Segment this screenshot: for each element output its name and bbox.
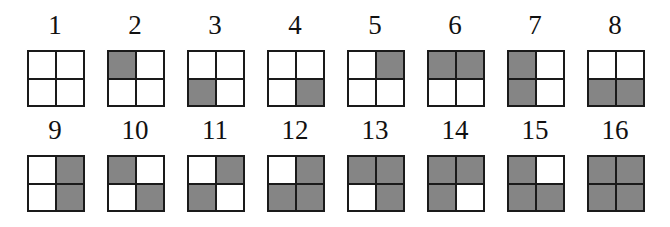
two-by-two-grid xyxy=(187,50,245,107)
grid-cell-bottom-left-empty xyxy=(29,79,56,106)
grid-cell-top-left-empty xyxy=(189,157,216,184)
pattern-number-label: 8 xyxy=(587,10,643,40)
two-by-two-grid xyxy=(107,50,165,107)
pattern-item-10: 10 xyxy=(107,115,163,212)
two-by-two-grid xyxy=(187,155,245,212)
grid-cell-bottom-right-empty xyxy=(216,79,243,106)
pattern-number-label: 2 xyxy=(107,10,163,40)
grid-cell-top-left-filled xyxy=(109,157,136,184)
grid-cell-top-right-filled xyxy=(456,52,483,79)
pattern-item-3: 3 xyxy=(187,10,243,107)
grid-cell-bottom-right-empty xyxy=(376,79,403,106)
two-by-two-grid xyxy=(427,155,485,212)
pattern-number-label: 14 xyxy=(427,115,483,145)
grid-cell-top-right-filled xyxy=(216,157,243,184)
grid-cell-top-left-filled xyxy=(589,157,616,184)
pattern-number-label: 10 xyxy=(107,115,163,145)
two-by-two-grid xyxy=(27,50,85,107)
grid-cell-bottom-left-empty xyxy=(29,184,56,211)
pattern-item-8: 8 xyxy=(587,10,643,107)
grid-cell-bottom-left-filled xyxy=(189,184,216,211)
grid-cell-bottom-left-filled xyxy=(269,184,296,211)
grid-cell-top-left-empty xyxy=(269,157,296,184)
pattern-number-label: 5 xyxy=(347,10,403,40)
grid-cell-top-right-filled xyxy=(376,52,403,79)
pattern-number-label: 4 xyxy=(267,10,323,40)
grid-cell-bottom-right-filled xyxy=(616,79,643,106)
grid-cell-bottom-right-filled xyxy=(136,184,163,211)
two-by-two-grid xyxy=(587,50,645,107)
grid-cell-bottom-left-filled xyxy=(589,79,616,106)
two-by-two-grid xyxy=(507,50,565,107)
pattern-item-6: 6 xyxy=(427,10,483,107)
pattern-number-label: 1 xyxy=(27,10,83,40)
grid-cell-bottom-right-filled xyxy=(536,184,563,211)
pattern-item-9: 9 xyxy=(27,115,83,212)
two-by-two-grid xyxy=(347,155,405,212)
grid-cell-top-right-empty xyxy=(536,157,563,184)
two-by-two-grid xyxy=(347,50,405,107)
pattern-item-15: 15 xyxy=(507,115,563,212)
grid-cell-bottom-left-filled xyxy=(509,184,536,211)
pattern-item-5: 5 xyxy=(347,10,403,107)
grid-cell-top-right-empty xyxy=(616,52,643,79)
two-by-two-grid xyxy=(27,155,85,212)
grid-cell-top-left-filled xyxy=(429,157,456,184)
grid-cell-top-left-empty xyxy=(189,52,216,79)
grid-cell-bottom-left-filled xyxy=(509,79,536,106)
pattern-item-1: 1 xyxy=(27,10,83,107)
pattern-item-12: 12 xyxy=(267,115,323,212)
grid-cell-bottom-left-filled xyxy=(189,79,216,106)
grid-cell-top-left-empty xyxy=(589,52,616,79)
pattern-number-label: 9 xyxy=(27,115,83,145)
grid-cell-top-right-filled xyxy=(296,157,323,184)
grid-cell-bottom-left-filled xyxy=(429,184,456,211)
grid-cell-bottom-right-empty xyxy=(56,79,83,106)
grid-cell-top-left-filled xyxy=(109,52,136,79)
pattern-item-16: 16 xyxy=(587,115,643,212)
pattern-number-label: 7 xyxy=(507,10,563,40)
grid-cell-bottom-right-filled xyxy=(616,184,643,211)
grid-cell-bottom-left-empty xyxy=(349,79,376,106)
pattern-number-label: 11 xyxy=(187,115,243,145)
grid-cell-top-right-filled xyxy=(616,157,643,184)
grid-cell-top-left-filled xyxy=(429,52,456,79)
grid-cell-top-right-empty xyxy=(136,52,163,79)
grid-cell-top-left-empty xyxy=(29,52,56,79)
grid-cell-top-right-empty xyxy=(136,157,163,184)
grid-cell-top-right-filled xyxy=(376,157,403,184)
grid-cell-bottom-right-empty xyxy=(456,79,483,106)
grid-cell-top-left-empty xyxy=(349,52,376,79)
grid-cell-bottom-right-filled xyxy=(296,184,323,211)
grid-cell-top-left-filled xyxy=(509,52,536,79)
grid-cell-bottom-left-empty xyxy=(109,184,136,211)
grid-cell-top-right-empty xyxy=(296,52,323,79)
grid-cell-top-left-empty xyxy=(29,157,56,184)
grid-cell-top-right-empty xyxy=(536,52,563,79)
pattern-number-label: 16 xyxy=(587,115,643,145)
pattern-number-label: 3 xyxy=(187,10,243,40)
grid-cell-bottom-right-empty xyxy=(136,79,163,106)
grid-cell-bottom-right-empty xyxy=(456,184,483,211)
two-by-two-grid xyxy=(107,155,165,212)
grid-cell-top-left-filled xyxy=(349,157,376,184)
grid-cell-top-right-filled xyxy=(456,157,483,184)
grid-cell-top-right-empty xyxy=(216,52,243,79)
grid-cell-top-left-empty xyxy=(269,52,296,79)
pattern-number-label: 15 xyxy=(507,115,563,145)
two-by-two-grid xyxy=(267,155,325,212)
grid-cell-bottom-left-empty xyxy=(349,184,376,211)
pattern-number-label: 12 xyxy=(267,115,323,145)
pattern-item-2: 2 xyxy=(107,10,163,107)
grid-cell-bottom-left-filled xyxy=(589,184,616,211)
pattern-number-label: 6 xyxy=(427,10,483,40)
grid-cell-bottom-left-empty xyxy=(269,79,296,106)
two-by-two-grid xyxy=(587,155,645,212)
grid-cell-bottom-right-empty xyxy=(216,184,243,211)
pattern-item-7: 7 xyxy=(507,10,563,107)
two-by-two-grid xyxy=(507,155,565,212)
two-by-two-grid xyxy=(267,50,325,107)
grid-cell-bottom-right-filled xyxy=(376,184,403,211)
grid-cell-bottom-left-empty xyxy=(109,79,136,106)
pattern-item-11: 11 xyxy=(187,115,243,212)
